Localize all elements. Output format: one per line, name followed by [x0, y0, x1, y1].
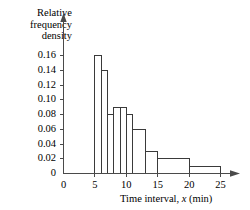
histogram-bar — [126, 115, 132, 174]
histogram-bar — [158, 159, 189, 174]
x-tick-label: 15 — [150, 179, 166, 190]
histogram-bar — [145, 151, 158, 173]
y-tick-label: 0.12 — [22, 79, 56, 90]
y-tick-label: 0 — [22, 167, 56, 178]
y-tick-label: 0.10 — [22, 93, 56, 104]
x-tick-label: 10 — [118, 179, 134, 190]
x-tick-label: 0 — [56, 179, 72, 190]
y-axis-arrow — [60, 13, 66, 22]
y-tick-label: 0.06 — [22, 123, 56, 134]
y-tick-label: 0.14 — [22, 64, 56, 75]
histogram-bar — [101, 71, 107, 174]
histogram-bar — [120, 107, 126, 173]
x-tick-label: 5 — [87, 179, 103, 190]
histogram-bar — [133, 129, 146, 173]
histogram-bar — [114, 107, 120, 173]
y-tick-label: 0.16 — [22, 49, 56, 60]
histogram-bar — [107, 115, 113, 174]
y-tick-label: 0.08 — [22, 108, 56, 119]
x-axis-arrow — [230, 170, 240, 176]
histogram-bar — [189, 166, 220, 173]
x-tick-label: 20 — [181, 179, 197, 190]
histogram-figure: Relative frequency density Time interval… — [0, 0, 250, 210]
y-tick-label: 0.04 — [22, 138, 56, 149]
x-tick-label: 25 — [213, 179, 229, 190]
y-tick-label: 0.02 — [22, 152, 56, 163]
histogram-bar — [95, 56, 101, 174]
bars-group — [95, 56, 221, 174]
